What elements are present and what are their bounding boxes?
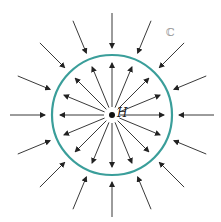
- field-diagram: [0, 0, 221, 222]
- inward-arrow: [138, 177, 151, 209]
- outward-arrow: [64, 118, 105, 135]
- outward-arrow: [75, 121, 106, 152]
- outward-arrow: [118, 121, 149, 152]
- inward-arrow: [138, 21, 151, 53]
- center-label: H: [117, 106, 127, 120]
- inward-arrow: [18, 76, 50, 89]
- outward-arrow: [92, 122, 109, 163]
- inward-arrow: [73, 21, 86, 53]
- outward-arrow: [75, 78, 106, 109]
- inward-arrow: [73, 177, 86, 209]
- outward-arrow: [115, 122, 132, 163]
- diagram-canvas: H ℂ: [0, 0, 221, 222]
- inward-arrow: [174, 76, 206, 89]
- outward-arrow: [115, 67, 132, 108]
- complex-plane-label: ℂ: [166, 26, 175, 39]
- inward-arrow: [159, 43, 184, 68]
- inward-arrow: [174, 141, 206, 154]
- inward-arrow: [159, 162, 184, 187]
- inward-arrow: [40, 43, 65, 68]
- outward-arrow: [119, 118, 160, 135]
- outward-arrow: [118, 78, 149, 109]
- outward-arrow: [92, 67, 109, 108]
- center-point: [109, 112, 115, 118]
- inward-arrow: [40, 162, 65, 187]
- outward-arrow: [64, 95, 105, 112]
- inward-arrow: [18, 141, 50, 154]
